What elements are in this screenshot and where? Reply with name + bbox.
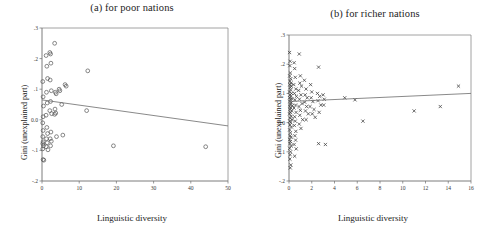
svg-text:20: 20 [114,185,120,191]
panel-a-plot-area: 01020304050-.2-.10.0.1.2.3 [0,0,246,227]
svg-text:-.2: -.2 [279,178,285,184]
svg-text:10: 10 [76,185,82,191]
svg-text:30: 30 [151,185,157,191]
panel-b-plot-area: 0246810121416-.2-.10.0.1.2.3 [247,0,493,227]
svg-text:10: 10 [400,185,406,191]
svg-text:8: 8 [379,185,382,191]
svg-text:4: 4 [333,185,336,191]
svg-text:0: 0 [41,185,44,191]
svg-text:2: 2 [310,185,313,191]
svg-text:50: 50 [225,185,231,191]
panel-b-x-axis-title: Linguistic diversity [247,213,493,223]
svg-text:0: 0 [288,185,291,191]
svg-text:.1: .1 [34,86,38,92]
svg-text:6: 6 [356,185,359,191]
svg-text:12: 12 [423,185,429,191]
svg-text:.3: .3 [281,32,285,38]
svg-text:16: 16 [468,185,474,191]
svg-text:-.1: -.1 [32,147,38,153]
panel-poor-nations: (a) for poor nations 01020304050-.2-.10.… [0,0,246,227]
panel-b-y-axis-title: Gini (unexplained part) [274,83,283,158]
svg-text:40: 40 [188,185,194,191]
svg-text:.3: .3 [34,25,38,31]
svg-text:0.0: 0.0 [31,117,38,123]
panel-a-y-axis-title: Gini (unexplained part) [20,85,29,160]
svg-text:14: 14 [445,185,451,191]
svg-text:-.2: -.2 [32,178,38,184]
svg-text:.2: .2 [34,56,38,62]
scatter-plot-figure: (a) for poor nations 01020304050-.2-.10.… [0,0,493,227]
panel-a-x-axis-title: Linguistic diversity [0,213,246,223]
panel-richer-nations: (b) for richer nations 0246810121416-.2-… [247,0,493,227]
svg-text:.2: .2 [281,61,285,67]
